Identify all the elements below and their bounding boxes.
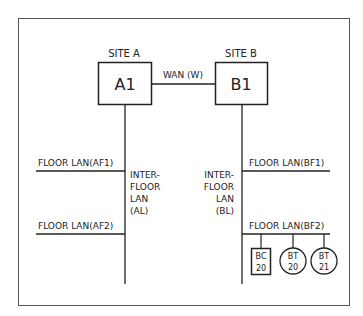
node-a1: A1 <box>99 63 152 105</box>
svg-text:BC: BC <box>256 252 267 261</box>
inter-floor-b-label: INTER- FLOOR LAN (BL) <box>204 170 234 216</box>
wan-label: WAN (W) <box>163 70 203 80</box>
svg-text:FLOOR: FLOOR <box>204 182 234 192</box>
device-bt20: BT 20 <box>280 234 306 274</box>
svg-text:LAN: LAN <box>130 194 148 204</box>
svg-text:(BL): (BL) <box>216 206 234 216</box>
floor-lan-af1-label: FLOOR LAN(AF1) <box>38 158 113 168</box>
svg-text:20: 20 <box>288 263 298 272</box>
network-diagram: SITE A SITE B A1 B1 WAN (W) INTER- FLOOR… <box>0 0 363 316</box>
svg-text:LAN: LAN <box>216 194 234 204</box>
floor-lan-bf1-label: FLOOR LAN(BF1) <box>249 158 324 168</box>
svg-text:BT: BT <box>288 252 298 261</box>
svg-text:INTER-: INTER- <box>204 170 234 180</box>
svg-text:FLOOR: FLOOR <box>130 182 160 192</box>
svg-text:BT: BT <box>319 252 329 261</box>
device-bt21: BT 21 <box>311 234 337 274</box>
floor-lan-bf2-label: FLOOR LAN(BF2) <box>249 221 324 231</box>
site-b-label: SITE B <box>225 48 257 59</box>
svg-text:A1: A1 <box>114 75 135 94</box>
site-a-label: SITE A <box>108 48 140 59</box>
node-b1: B1 <box>216 63 268 105</box>
svg-text:(AL): (AL) <box>130 206 148 216</box>
floor-lan-af2-label: FLOOR LAN(AF2) <box>38 221 113 231</box>
svg-text:21: 21 <box>319 263 329 272</box>
svg-text:INTER-: INTER- <box>130 170 160 180</box>
svg-text:20: 20 <box>256 264 266 273</box>
device-bc20: BC 20 <box>252 234 271 275</box>
svg-text:B1: B1 <box>230 75 251 94</box>
inter-floor-a-label: INTER- FLOOR LAN (AL) <box>130 170 160 216</box>
